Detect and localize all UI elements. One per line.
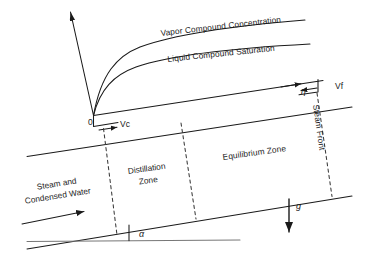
vertical-axis-arrow [71, 12, 94, 116]
steam-flow-arrow [22, 212, 84, 225]
eta-label: η [301, 86, 306, 97]
diagram-canvas: Vapor Compound Concentration Liquid Comp… [0, 0, 382, 257]
distillation-zone-label: Distillation Zone [127, 160, 168, 190]
eta-arrow [281, 84, 301, 87]
horizontal-reference-line [27, 240, 240, 242]
gravity-label: g [296, 201, 301, 212]
vc-arrow [99, 127, 117, 130]
diagram-vector-layer [0, 0, 382, 257]
zone-divider-2 [181, 123, 196, 219]
alpha-label: α [139, 229, 144, 240]
vc-label: Vc [120, 119, 130, 130]
vapor-concentration-curve [94, 20, 306, 116]
origin-label: 0 [88, 117, 93, 128]
zone-divider-1 [104, 129, 118, 236]
upper-boundary-line [27, 107, 352, 157]
origin-riser-bracket [94, 116, 119, 127]
vf-label: Vf [335, 81, 343, 92]
